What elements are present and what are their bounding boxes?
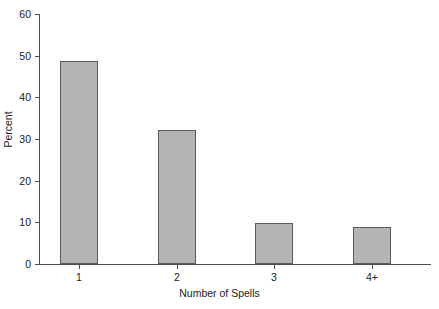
x-axis-title: Number of Spells xyxy=(0,288,439,299)
y-tick-mark xyxy=(35,181,40,182)
bar xyxy=(60,61,98,264)
x-tick-mark xyxy=(372,265,373,269)
y-tick-label: 40 xyxy=(19,92,31,103)
y-tick-mark xyxy=(35,222,40,223)
x-tick-mark xyxy=(274,265,275,269)
y-tick-label: 10 xyxy=(19,217,31,228)
bar xyxy=(158,130,196,264)
y-tick-label: 30 xyxy=(19,134,31,145)
x-tick-mark xyxy=(79,265,80,269)
y-tick-label: 60 xyxy=(19,9,31,20)
y-tick-mark xyxy=(35,97,40,98)
x-tick-label: 4+ xyxy=(342,272,402,283)
x-tick-mark xyxy=(177,265,178,269)
x-tick-label: 2 xyxy=(147,272,207,283)
y-axis-title: Percent xyxy=(3,100,14,160)
y-tick-label: 20 xyxy=(19,176,31,187)
bar xyxy=(353,227,391,264)
y-tick-label: 50 xyxy=(19,51,31,62)
y-tick-mark xyxy=(35,56,40,57)
bar xyxy=(255,223,293,264)
y-tick-label: 0 xyxy=(25,259,31,270)
bar-chart: 0102030405060 1234+ Percent Number of Sp… xyxy=(0,0,439,309)
y-tick-mark xyxy=(35,139,40,140)
y-tick-mark xyxy=(35,264,40,265)
x-tick-label: 3 xyxy=(244,272,304,283)
y-tick-mark xyxy=(35,14,40,15)
x-tick-label: 1 xyxy=(49,272,109,283)
